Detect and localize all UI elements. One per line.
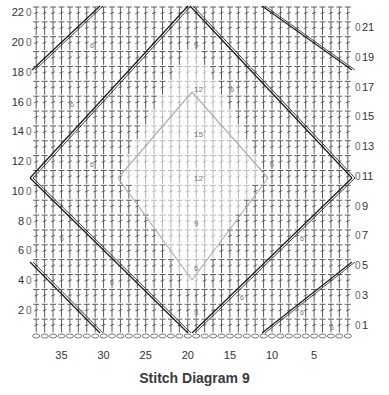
row-label-12: 12 (6, 155, 24, 167)
svg-text:6: 6 (70, 101, 74, 108)
svg-text:6: 6 (240, 294, 244, 301)
row-label-13: 13 (362, 140, 374, 152)
turning-chain-marker: 0 (355, 290, 361, 301)
row-label-19: 19 (362, 51, 374, 63)
row-label-9: 9 (362, 200, 368, 212)
turning-chain-marker: 0 (355, 320, 361, 331)
svg-text:15: 15 (194, 130, 203, 139)
turning-chain-marker: 0 (26, 7, 32, 18)
column-label-25: 25 (136, 349, 156, 361)
turning-chain-marker: 0 (26, 156, 32, 167)
row-label-7: 7 (362, 229, 368, 241)
svg-text:3: 3 (194, 308, 199, 317)
row-label-5: 5 (362, 259, 368, 271)
svg-text:6: 6 (300, 309, 304, 316)
row-label-22: 22 (6, 6, 24, 18)
foundation-chain (33, 334, 352, 338)
row-label-20: 20 (6, 36, 24, 48)
row-label-1: 1 (362, 319, 368, 331)
column-label-35: 35 (51, 349, 71, 361)
row-label-2: 2 (6, 304, 24, 316)
svg-text:6: 6 (60, 235, 64, 242)
row-label-14: 14 (6, 125, 24, 137)
turning-chain-marker: 0 (355, 141, 361, 152)
diagram-title: Stitch Diagram 9 (0, 370, 389, 386)
column-label-10: 10 (262, 349, 282, 361)
turning-chain-marker: 0 (26, 305, 32, 316)
turning-chain-marker: 0 (355, 230, 361, 241)
row-label-11: 11 (362, 170, 373, 182)
row-label-16: 16 (6, 96, 24, 108)
svg-text:6: 6 (90, 161, 94, 168)
svg-text:6: 6 (230, 86, 234, 93)
row-label-15: 15 (362, 110, 374, 122)
turning-chain-marker: 0 (26, 67, 32, 78)
turning-chain-marker: 0 (355, 171, 361, 182)
svg-text:6: 6 (194, 264, 199, 273)
svg-text:6: 6 (330, 324, 334, 331)
row-label-17: 17 (362, 81, 374, 93)
turning-chain-marker: 0 (355, 111, 361, 122)
turning-chain-marker: 0 (26, 216, 32, 227)
row-label-4: 4 (6, 274, 24, 286)
turning-chain-marker: 0 (355, 52, 361, 63)
svg-text:9: 9 (194, 219, 199, 228)
column-label-20: 20 (178, 349, 198, 361)
turning-chain-marker: 0 (26, 37, 32, 48)
svg-text:9: 9 (194, 41, 199, 50)
svg-text:12: 12 (194, 85, 203, 94)
svg-text:6: 6 (300, 235, 304, 242)
svg-text:12: 12 (194, 174, 203, 183)
svg-text:6: 6 (110, 279, 114, 286)
row-label-18: 18 (6, 66, 24, 78)
row-label-8: 8 (6, 215, 24, 227)
turning-chain-marker: 0 (26, 97, 32, 108)
turning-chain-marker: 0 (355, 260, 361, 271)
svg-text:6: 6 (80, 309, 84, 316)
svg-text:6: 6 (270, 161, 274, 168)
stitch-diagram: 3691215129666666666666 (0, 0, 389, 395)
row-label-10: 10 (6, 185, 24, 197)
column-label-5: 5 (304, 349, 324, 361)
turning-chain-marker: 0 (26, 126, 32, 137)
turning-chain-marker: 0 (26, 245, 32, 256)
row-label-21: 21 (362, 21, 374, 33)
turning-chain-marker: 0 (355, 201, 361, 212)
column-label-15: 15 (220, 349, 240, 361)
stitch-grid (33, 7, 351, 333)
column-label-30: 30 (94, 349, 114, 361)
row-label-3: 3 (362, 289, 368, 301)
row-label-6: 6 (6, 244, 24, 256)
turning-chain-marker: 0 (355, 82, 361, 93)
turning-chain-marker: 0 (26, 275, 32, 286)
inner-diamond-lines (118, 92, 268, 280)
svg-text:6: 6 (90, 42, 94, 49)
turning-chain-marker: 0 (26, 186, 32, 197)
turning-chain-marker: 0 (355, 22, 361, 33)
